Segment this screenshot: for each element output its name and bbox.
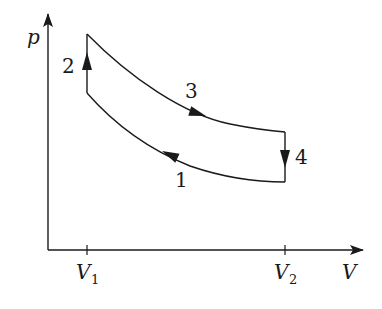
x-axis-label: V (342, 260, 359, 284)
tick-label-v2: V 2 (274, 260, 297, 287)
process-label-1: 1 (175, 168, 188, 192)
tick-label-v1-sub: 1 (91, 272, 99, 287)
tick-label-v1: V 1 (76, 260, 99, 287)
y-axis-label: p (27, 25, 40, 49)
process-label-2: 2 (62, 54, 75, 78)
tick-label-v2-sub: 2 (289, 272, 297, 287)
arrow-down-icon (280, 150, 290, 168)
arrow-up-icon (82, 52, 92, 70)
cycle (87, 34, 285, 182)
process-label-4: 4 (295, 145, 308, 169)
axes (48, 14, 363, 255)
pv-diagram: p V V 1 V 2 2 3 4 1 (0, 0, 382, 309)
cycle-arrows (82, 52, 290, 168)
process-label-3: 3 (185, 79, 198, 103)
arrow-right-icon (188, 106, 207, 121)
